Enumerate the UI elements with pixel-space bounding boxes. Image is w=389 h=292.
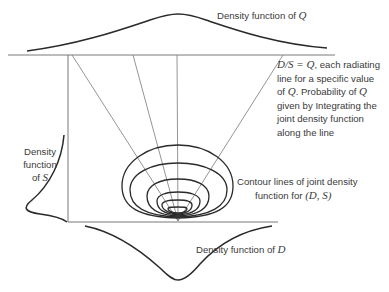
s-density-label: Density function of S	[20, 146, 60, 185]
q-density-label: Density function of Q	[217, 9, 307, 23]
d-density-label: Density function of D	[196, 243, 286, 257]
ds-ratio-note: D/S = Q, each radiating line for a speci…	[277, 58, 380, 139]
contour-label: Contour lines of joint density function …	[237, 176, 358, 202]
